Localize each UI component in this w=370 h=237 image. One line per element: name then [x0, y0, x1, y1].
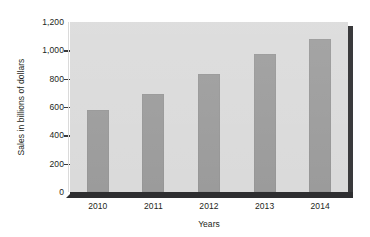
y-tick-label: 1,200	[42, 17, 64, 27]
plot-depth-right-edge	[348, 26, 353, 196]
x-tick-label: 2011	[144, 201, 163, 211]
bar-2012	[198, 74, 220, 192]
y-tick-label: 800	[50, 74, 64, 84]
y-axis-line	[68, 22, 69, 192]
x-tick-label: 2014	[311, 201, 330, 211]
x-tick-label: 2013	[255, 201, 274, 211]
x-tick-label: 2010	[88, 201, 107, 211]
y-tick-label: 1,000	[42, 45, 64, 55]
plot-area	[70, 22, 348, 192]
y-tick-label: 200	[50, 159, 64, 169]
y-axis-tick-labels: 1,200 1,000 800 600 400 200 0	[28, 0, 64, 237]
x-axis-title: Years	[70, 219, 348, 229]
plot-depth-bottom-edge	[70, 192, 353, 198]
y-tick-label: 0	[59, 187, 64, 197]
bar-2011	[142, 94, 164, 192]
y-tick-label: 400	[50, 130, 64, 140]
bar-chart: Sales in billions of dollars 1,200 1,000…	[0, 0, 370, 237]
y-tick-label: 600	[50, 102, 64, 112]
x-axis-tick-labels: 2010 2011 2012 2013 2014	[70, 201, 348, 215]
x-tick-label: 2012	[199, 201, 218, 211]
y-axis-title: Sales in billions of dollars	[14, 22, 28, 192]
bar-2010	[87, 110, 109, 192]
bar-2014	[309, 39, 331, 192]
bar-2013	[254, 54, 276, 192]
